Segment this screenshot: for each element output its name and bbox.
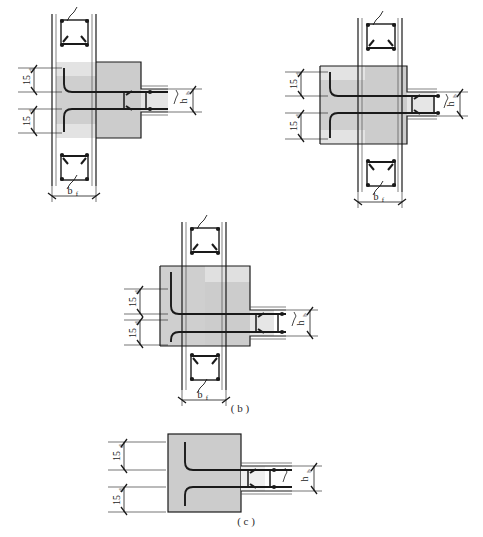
dim-label-hb-sub-c: b [305, 469, 313, 473]
dim-label-hb-a-left: h [178, 99, 189, 104]
wall-concrete-fill-bot-a-left [56, 124, 96, 138]
dim-label-15d-lower-sub-b: d [133, 321, 141, 325]
joint-core-fill-a-right [365, 66, 407, 144]
dim-label-15d-lower-c: 15 [111, 495, 122, 505]
dim-label-15d-upper-sub-b: d [133, 290, 141, 294]
dim-label-hb-sub-b: b [301, 313, 309, 317]
rebar-dot [366, 23, 370, 27]
rebar-dot [85, 153, 89, 157]
rebar-dot [392, 47, 396, 51]
dim-label-15d-upper-sub-a-left: d [27, 68, 35, 72]
dim-label-15d-lower-sub-a-right: d [294, 114, 302, 118]
dim-label-15d-upper-sub-a-right: d [294, 72, 302, 76]
engineering-drawing-canvas: 15 d 15 d b f h b [0, 0, 483, 537]
rebar-dot [280, 330, 284, 334]
dim-label-15d-upper-c: 15 [111, 451, 122, 461]
rebar-dot [148, 90, 152, 94]
dim-label-bf-a-left: b [68, 185, 73, 196]
rebar-dot [366, 159, 370, 163]
rebar-dot [392, 159, 396, 163]
rebar-dot [60, 43, 64, 47]
rebar-dot [60, 153, 64, 157]
dim-label-15d-upper-a-right: 15 [288, 79, 299, 89]
rebar-dot [85, 43, 89, 47]
rebar-dot [392, 183, 396, 187]
rebar-dot [216, 377, 220, 381]
dim-label-bf-a-right: b [374, 191, 379, 202]
rebar-dot [216, 251, 220, 255]
rebar-dot [216, 227, 220, 231]
dim-label-15d-upper-b: 15 [127, 297, 138, 307]
dim-label-15d-lower-a-right: 15 [288, 121, 299, 131]
dim-label-15d-lower-sub-c: d [117, 488, 125, 492]
rebar-dot [190, 377, 194, 381]
dim-label-15d-upper-a-left: 15 [21, 75, 32, 85]
dim-label-hb-sub-a-right: b [451, 94, 459, 98]
dim-label-hb-c: h [299, 477, 310, 482]
rebar-dot [272, 468, 276, 472]
rebar-dot [190, 353, 194, 357]
rebar-dot [216, 353, 220, 357]
dim-label-hb-a-right: h [445, 102, 456, 107]
rebar-dot [392, 23, 396, 27]
joint-core-fill-a-left [96, 62, 141, 138]
dim-label-15d-upper-sub-c: d [117, 444, 125, 448]
dim-label-hb-b: h [295, 321, 306, 326]
wall-concrete-fill-top-a-left [56, 62, 96, 76]
rebar-dot [85, 177, 89, 181]
rebar-dot [366, 47, 370, 51]
dim-label-15d-lower-a-left: 15 [21, 116, 32, 126]
rebar-dot [366, 183, 370, 187]
dim-label-hb-sub-a-left: b [184, 91, 192, 95]
caption-b: ( b ) [231, 402, 250, 415]
rebar-dot [436, 111, 440, 115]
rebar-dot [436, 94, 440, 98]
joint-fill-top-b [205, 266, 250, 282]
dim-label-bf-b: b [198, 389, 203, 400]
rebar-dot [280, 312, 284, 316]
rebar-dot [148, 107, 152, 111]
dim-label-15d-lower-b: 15 [127, 328, 138, 338]
rebar-dot [60, 19, 64, 23]
rebar-dot [190, 227, 194, 231]
caption-c: ( c ) [237, 515, 255, 528]
rebar-dot [60, 177, 64, 181]
dim-label-15d-lower-sub-a-left: d [27, 109, 35, 113]
rebar-dot [190, 251, 194, 255]
wall-concrete-fill-c [168, 434, 241, 512]
rebar-dot [85, 19, 89, 23]
rebar-dot [272, 485, 276, 489]
figure-root: 15 d 15 d b f h b [0, 0, 483, 537]
